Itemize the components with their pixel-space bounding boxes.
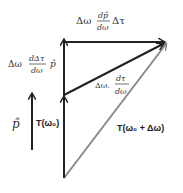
top-coef: Δω bbox=[76, 15, 91, 26]
diag-num: dτ bbox=[116, 74, 126, 83]
left-den: dω bbox=[31, 66, 43, 75]
top-den: dω bbox=[97, 23, 109, 32]
diag-den: dω bbox=[115, 87, 127, 96]
left-tail: p̂ bbox=[50, 59, 56, 69]
t-omega-plus-arrow bbox=[64, 44, 166, 178]
top-tail: Δτ bbox=[112, 15, 125, 26]
top-num: dp̂ bbox=[98, 11, 108, 20]
diag-coef: Δω. bbox=[95, 81, 110, 90]
left-coef: Δω bbox=[8, 59, 22, 69]
t-omega0-label: T(ω₀) bbox=[36, 118, 59, 128]
dtau-diag-arrow bbox=[64, 44, 163, 95]
left-num: dΔτ bbox=[29, 54, 45, 63]
vector-diagram: Δω dp̂ dω Δτ Δω dΔτ dω p̂ Δω. dτ dω p̂ T… bbox=[0, 0, 183, 193]
p-hat-label: p̂ bbox=[12, 117, 20, 131]
t-omega-plus-label: T(ω₀ + Δω) bbox=[117, 123, 164, 133]
